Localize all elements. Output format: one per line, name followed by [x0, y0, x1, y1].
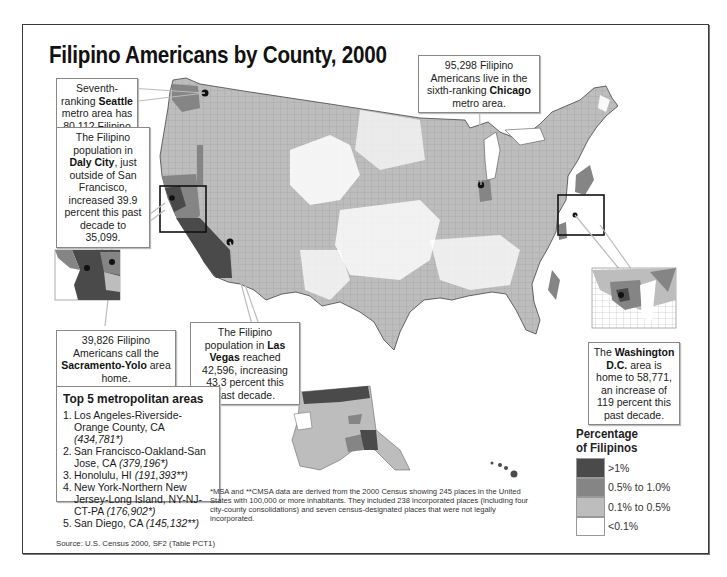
bayarea-inset [55, 250, 120, 300]
washington-callout: The Washington D.C. area is home to 58,7… [588, 342, 680, 425]
top-metro-areas-box: Top 5 metropolitan areas 1.Los Angeles-R… [56, 386, 220, 502]
metro-value: (191,393**) [135, 469, 188, 481]
metro-name: Los Angeles-Riverside-Orange County, CA [74, 409, 182, 433]
legend-item: <0.1% [576, 517, 701, 537]
legend-item: 0.5% to 1.0% [576, 478, 701, 498]
metro-name: Honolulu, HI [74, 469, 132, 481]
callout-city: Daly City [69, 156, 114, 168]
region-florida-mid [548, 270, 560, 300]
callout-city: Sacramento-Yolo [61, 359, 147, 371]
legend-swatch [576, 517, 605, 537]
legend-title-line2: of Filipinos [576, 441, 691, 455]
list-item: 4.New York-Northern New Jersey-Long Isla… [63, 481, 213, 517]
alaska [292, 386, 410, 470]
bayarea-marker [169, 195, 175, 201]
callout-text: 39,826 Filipino Americans call the [73, 334, 159, 359]
callout-text: , just outside of San Francisco, increas… [64, 156, 141, 243]
sacramento-callout: 39,826 Filipino Americans call the Sacra… [56, 330, 176, 388]
daly-city-callout: The Filipino population in Daly City, ju… [56, 127, 150, 248]
callout-text: The Filipino population in [205, 326, 272, 351]
footnote: *MSA and **CMSA data are derived from th… [210, 487, 535, 523]
top-metro-heading: Top 5 metropolitan areas [63, 391, 195, 406]
metro-value: (434,781*) [74, 433, 123, 445]
rank: 1. [63, 409, 74, 445]
legend-item: >1% [576, 458, 701, 478]
rank: 4. [63, 481, 74, 517]
region-virginia-mid [558, 222, 567, 240]
legend-title-line1: Percentage [576, 427, 691, 441]
list-item: 1.Los Angeles-Riverside-Orange County, C… [63, 409, 213, 445]
callout-text: The Filipino population in [73, 131, 133, 156]
rank: 5. [63, 517, 74, 529]
metro-value: (176,902*) [106, 505, 155, 517]
legend-label: 0.5% to 1.0% [608, 481, 670, 493]
chicago-callout: 95,298 Filipino Americans live in the si… [418, 55, 540, 113]
metro-value: (145,132**) [146, 517, 199, 529]
top-metro-list: 1.Los Angeles-Riverside-Orange County, C… [63, 409, 213, 529]
callout-city: Seattle [98, 95, 132, 107]
metro-name: San Diego, CA [74, 517, 143, 529]
list-item: 2.San Francisco-Oakland-San Jose, CA (37… [63, 445, 213, 469]
region-nevada-strip-mid [197, 145, 203, 185]
list-item: 5.San Diego, CA (145,132**) [63, 517, 213, 529]
legend-swatch [576, 458, 605, 478]
hawaii [491, 462, 518, 478]
legend-label: <0.1% [608, 520, 638, 532]
callout-text: The [594, 346, 615, 358]
legend: Percentage of Filipinos >1% 0.5% to 1.0%… [576, 427, 701, 536]
legend-item: 0.1% to 0.5% [576, 497, 701, 517]
rank: 3. [63, 469, 74, 481]
legend-swatch [576, 497, 605, 517]
list-item: 3.Honolulu, HI (191,393**) [63, 469, 213, 481]
dc-inset [592, 268, 676, 328]
rank: 2. [63, 445, 74, 469]
legend-swatch [576, 478, 605, 498]
metro-value: (379,196*) [119, 457, 168, 469]
legend-label: 0.1% to 0.5% [608, 501, 670, 513]
callout-text: metro area. [452, 97, 506, 109]
legend-label: >1% [608, 462, 629, 474]
region-eastcoast-mid [575, 165, 594, 195]
source-credit: Source: U.S. Census 2000, SF2 (Table PCT… [56, 539, 215, 548]
callout-city: Chicago [490, 84, 531, 96]
